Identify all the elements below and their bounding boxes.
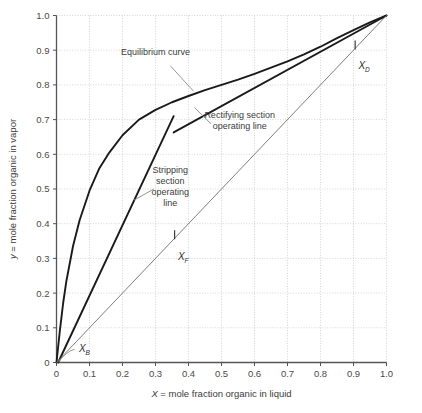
distillation-mccabe-thiele-chart: XBXFXD 00.10.20.30.40.50.60.70.80.91.000…: [0, 0, 422, 413]
x-tick-label: 0.8: [314, 368, 327, 379]
composition-markers: XBXFXD: [58, 40, 370, 362]
y-tick-label: 0.2: [36, 288, 49, 299]
y-tick-label: 0: [44, 357, 49, 368]
chart-canvas: XBXFXD 00.10.20.30.40.50.60.70.80.91.000…: [0, 0, 422, 413]
xf-marker-label: XF: [177, 251, 190, 264]
y-tick-label: 0.6: [36, 149, 49, 160]
xb-marker-label: XB: [78, 343, 91, 356]
equilibrium-curve-label: Equilibrium curve: [121, 47, 190, 57]
x-tick-label: 0.4: [182, 368, 195, 379]
y-tick-label: 0.7: [36, 114, 49, 125]
stripping-line-label: Strippingsectionoperatingline: [152, 165, 190, 208]
x-tick-label: 0.3: [149, 368, 162, 379]
x-tick-label: 0.9: [347, 368, 360, 379]
x-tick-label: 0.7: [281, 368, 294, 379]
rectifying-line-label: Rectifying sectionoperating line: [204, 110, 275, 131]
x-tick-label: 0.6: [248, 368, 261, 379]
y-axis-title: y = mole fraction organic in vapor: [7, 119, 18, 260]
x-tick-label: 1.0: [380, 368, 393, 379]
annotation-text-group: Equilibrium curveRectifying sectionopera…: [121, 47, 275, 208]
y-tick-label: 0.5: [36, 183, 49, 194]
equilibrium-curve-label-leader: [170, 66, 193, 91]
axis-title-group: X = mole fraction organic in liquidy = m…: [7, 119, 292, 399]
xd-marker-label: XD: [357, 60, 370, 73]
x-tick-label: 0.5: [215, 368, 228, 379]
y-tick-label: 0.3: [36, 253, 49, 264]
y-tick-label: 0.8: [36, 79, 49, 90]
x-axis-title: X = mole fraction organic in liquid: [150, 388, 291, 399]
x-tick-label: 0.1: [83, 368, 96, 379]
y-tick-label: 0.9: [36, 45, 49, 56]
x-tick-label: 0: [54, 368, 59, 379]
y-tick-label: 0.1: [36, 322, 49, 333]
x-tick-label: 0.2: [116, 368, 129, 379]
y-tick-label: 1.0: [36, 10, 49, 21]
y-tick-label: 0.4: [36, 218, 49, 229]
